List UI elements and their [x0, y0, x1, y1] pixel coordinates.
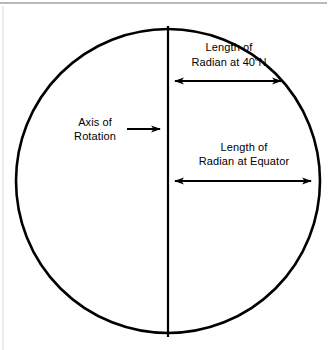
axis-of-rotation-label-line2: Rotation [62, 129, 128, 143]
axis-of-rotation-label-line1: Axis of [62, 115, 128, 129]
radian-40n-label-prefix: Radian at 40 [191, 56, 255, 68]
radian-equator-label-line2: Radian at Equator [168, 154, 320, 168]
radian-equator-label-line1: Length of [168, 140, 320, 154]
radian-equator-label: Length of Radian at Equator [168, 140, 320, 168]
radian-40n-label-line1: Length of [168, 40, 290, 54]
radian-40n-label: Length of Radian at 40ºN [168, 40, 290, 69]
radian-length-diagram: Axis of Rotation Length of Radian at 40º… [0, 0, 334, 350]
radian-40n-label-suffix: N [258, 56, 266, 68]
radian-40n-label-line2: Radian at 40ºN [168, 54, 290, 69]
axis-of-rotation-label: Axis of Rotation [62, 115, 128, 143]
